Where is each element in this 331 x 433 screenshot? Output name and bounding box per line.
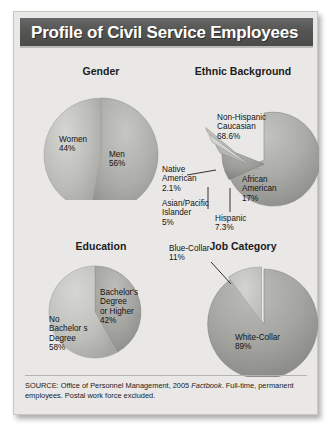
ethnic-label-non-hispanic-caucasian: Non-Hispanic Caucasian 68.6% [217,113,266,141]
panel-heading-education: Education [42,240,160,252]
page-title: Profile of Civil Service Employees [31,23,298,43]
source-text-before: Office of Personnel Management, 2005 [59,381,192,390]
ethnic-label-hispanic: Hispanic 7.3% [215,214,246,233]
source-note: SOURCE: Office of Personnel Management, … [25,381,307,400]
ethnic-label-native-american: Native American 2.1% [162,165,197,193]
job-label-blue-collar: Blue-Collar 11% [169,244,210,263]
infographic-card: Profile of Civil Service Employees Gende… [13,11,318,415]
gender-label-women: Women 44% [59,135,87,154]
chart-gender: Women 44% Men 56% [17,75,162,200]
source-prefix: SOURCE: [25,381,59,390]
job-category-pie-svg [169,252,319,377]
chart-job-category: Blue-Collar 11% White-Collar 89% [169,252,319,377]
ethnic-label-asian-pacific-islander: Asian/Pacific Islander 5% [162,199,209,227]
infographic-root: Profile of Civil Service Employees Gende… [0,0,331,433]
ethnic-label-african-american: African American 17% [242,175,277,203]
job-slice-white-collar [208,269,318,377]
gender-label-men: Men 56% [109,150,125,169]
job-label-white-collar: White-Collar 89% [235,333,280,352]
education-label-bachelors-or-higher: Bachelor's Degree or Higher 42% [100,288,138,326]
source-divider [25,375,307,376]
education-label-no-bachelors: No Bachelor s Degree 58% [49,315,88,353]
source-publication-title: Factbook [191,381,221,390]
chart-education: Bachelor's Degree or Higher 42% No Bache… [32,252,162,370]
chart-ethnic-background: Non-Hispanic Caucasian 68.6% African Ame… [154,75,319,240]
gender-pie-svg [17,75,162,200]
job-leader-line-blue-collar [211,262,231,284]
title-bar: Profile of Civil Service Employees [20,18,313,48]
